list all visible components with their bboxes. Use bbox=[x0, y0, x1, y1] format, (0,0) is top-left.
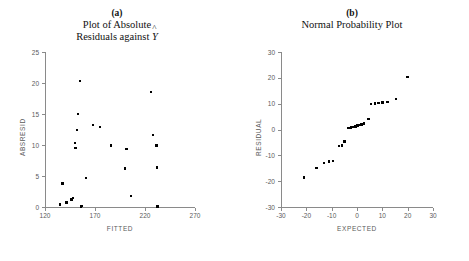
y-hat-symbol: ^Y bbox=[152, 31, 158, 43]
data-point bbox=[99, 126, 101, 128]
plot-b-area: -30-20-100102030-30-20-100102030EXPECTED… bbox=[281, 52, 433, 207]
data-point bbox=[341, 144, 343, 146]
data-point bbox=[79, 80, 81, 82]
data-point bbox=[77, 113, 79, 115]
panel-b-title-line1: Normal Probability Plot bbox=[302, 19, 403, 30]
panel-a-letter: (a) bbox=[0, 8, 234, 18]
data-point bbox=[130, 195, 132, 197]
data-point bbox=[395, 98, 397, 100]
x-tick bbox=[306, 208, 307, 211]
data-point bbox=[74, 142, 76, 144]
data-point bbox=[81, 205, 83, 207]
data-point bbox=[332, 160, 334, 162]
x-axis-label: FITTED bbox=[45, 225, 195, 232]
y-tick-label: 20 bbox=[251, 74, 275, 81]
y-tick-label: 20 bbox=[15, 80, 39, 87]
panel-a-title-line1: Plot of Absolute bbox=[83, 19, 151, 30]
y-tick bbox=[278, 52, 281, 53]
y-tick-label: -30 bbox=[251, 204, 275, 211]
plot-a-area: 0510152025120170220270FITTEDABSRESID bbox=[45, 52, 195, 207]
y-tick-label: -20 bbox=[251, 178, 275, 185]
y-tick bbox=[278, 181, 281, 182]
y-tick-label: 10 bbox=[251, 100, 275, 107]
y-tick bbox=[278, 155, 281, 156]
x-tick bbox=[332, 208, 333, 211]
data-point bbox=[343, 140, 345, 142]
x-tick bbox=[45, 208, 46, 211]
y-axis-label: RESIDUAL bbox=[255, 118, 262, 155]
y-tick-label: 0 bbox=[15, 204, 39, 211]
x-tick bbox=[145, 208, 146, 211]
y-tick-label: 15 bbox=[15, 111, 39, 118]
y-tick bbox=[42, 176, 45, 177]
data-point bbox=[72, 197, 74, 199]
y-tick bbox=[42, 83, 45, 84]
x-tick-label: 30 bbox=[418, 212, 448, 219]
data-point bbox=[61, 182, 63, 184]
data-point bbox=[125, 148, 127, 150]
y-tick bbox=[42, 145, 45, 146]
statistical-figure: (a) Plot of Absolute Residuals against ^… bbox=[0, 0, 469, 261]
y-axis-label: ABSRESID bbox=[19, 118, 26, 156]
x-tick-label: 270 bbox=[180, 212, 210, 219]
y-tick-label: 25 bbox=[15, 49, 39, 56]
y-tick bbox=[42, 114, 45, 115]
y-tick bbox=[278, 104, 281, 105]
panel-a-title: Plot of Absolute Residuals against ^Y bbox=[0, 19, 234, 42]
data-point bbox=[59, 203, 61, 205]
data-point bbox=[328, 160, 330, 162]
x-tick bbox=[281, 208, 282, 211]
data-point bbox=[150, 91, 152, 93]
y-tick bbox=[278, 130, 281, 131]
data-point bbox=[315, 167, 317, 169]
panel-b-letter: (b) bbox=[235, 8, 469, 18]
panel-b-title: Normal Probability Plot bbox=[235, 19, 469, 31]
x-tick-label: 170 bbox=[80, 212, 110, 219]
x-tick bbox=[195, 208, 196, 211]
data-point bbox=[155, 144, 157, 146]
x-axis-label: EXPECTED bbox=[281, 225, 433, 232]
data-point bbox=[303, 176, 305, 178]
data-point bbox=[65, 201, 67, 203]
y-tick-label: 30 bbox=[251, 49, 275, 56]
y-tick bbox=[42, 52, 45, 53]
data-point bbox=[76, 129, 78, 131]
y-tick-label: 5 bbox=[15, 173, 39, 180]
data-point bbox=[156, 166, 158, 168]
y-axis-line bbox=[45, 52, 46, 207]
panel-a-title-line2: Residuals against bbox=[76, 31, 149, 42]
x-axis-line bbox=[45, 207, 195, 208]
data-point bbox=[381, 101, 383, 103]
data-point bbox=[85, 177, 87, 179]
hat-accent: ^ bbox=[151, 24, 157, 33]
x-tick-label: 220 bbox=[130, 212, 160, 219]
data-point bbox=[323, 162, 325, 164]
data-point bbox=[363, 122, 365, 124]
y-axis-line bbox=[281, 52, 282, 207]
data-point bbox=[377, 102, 379, 104]
data-point bbox=[374, 102, 376, 104]
data-point bbox=[406, 76, 408, 78]
panel-b: (b) Normal Probability Plot -30-20-10010… bbox=[235, 0, 469, 261]
x-tick bbox=[408, 208, 409, 211]
data-point bbox=[110, 144, 112, 146]
x-tick bbox=[433, 208, 434, 211]
data-point bbox=[152, 134, 154, 136]
x-tick bbox=[95, 208, 96, 211]
data-point bbox=[92, 124, 94, 126]
data-point bbox=[156, 205, 158, 207]
panel-a: (a) Plot of Absolute Residuals against ^… bbox=[0, 0, 234, 261]
x-tick-label: 120 bbox=[30, 212, 60, 219]
data-point bbox=[367, 118, 369, 120]
x-tick bbox=[357, 208, 358, 211]
data-point bbox=[124, 167, 126, 169]
data-point bbox=[370, 103, 372, 105]
y-tick bbox=[278, 78, 281, 79]
data-point bbox=[386, 101, 388, 103]
data-point bbox=[74, 147, 76, 149]
x-tick bbox=[382, 208, 383, 211]
